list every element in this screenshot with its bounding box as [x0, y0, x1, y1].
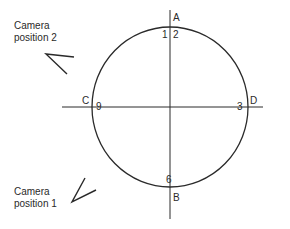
camera-1-label-line2: position 1	[14, 198, 57, 210]
point-label-b: B	[173, 192, 180, 204]
point-label-c: C	[82, 95, 89, 107]
clock-mark-9: 9	[96, 101, 102, 113]
camera-position-diagram: A B C D 1 2 3 6 9 Camera position 2 Came…	[0, 0, 290, 229]
camera-2-label: Camera position 2	[14, 20, 57, 44]
clock-mark-3: 3	[237, 101, 243, 113]
clock-mark-1: 1	[162, 29, 168, 41]
camera-1-label: Camera position 1	[14, 186, 57, 210]
camera-2-label-line2: position 2	[14, 32, 57, 44]
point-label-d: D	[250, 95, 257, 107]
camera-1-arrow-icon	[72, 178, 96, 202]
camera-2-label-line1: Camera	[14, 20, 57, 32]
clock-mark-6: 6	[166, 174, 172, 186]
camera-2-arrow-icon	[46, 54, 74, 74]
camera-1-label-line1: Camera	[14, 186, 57, 198]
point-label-a: A	[173, 12, 180, 24]
clock-mark-2: 2	[173, 29, 179, 41]
